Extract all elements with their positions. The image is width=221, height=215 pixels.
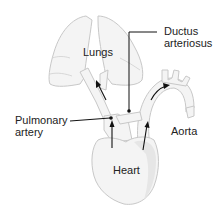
label-lungs: Lungs: [83, 46, 113, 58]
label-aorta: Aorta: [171, 125, 198, 137]
pulmonary-branch-right: [100, 70, 108, 90]
label-pulmonary-line2: artery: [15, 126, 44, 138]
label-heart: Heart: [113, 164, 140, 176]
fetal-circulation-diagram: Lungs Ductus arteriosus Pulmonary artery…: [0, 0, 221, 215]
label-ductus-line2: arteriosus: [164, 37, 213, 49]
label-ductus-line1: Ductus: [164, 25, 199, 37]
descending-aorta: [186, 106, 194, 118]
pulmonary-leader-dot: [109, 116, 113, 120]
ductus-leader-dot: [127, 109, 131, 113]
label-pulmonary-line1: Pulmonary: [15, 114, 68, 126]
